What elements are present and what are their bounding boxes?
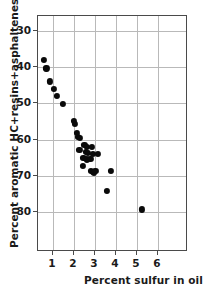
y-axis-tick xyxy=(33,102,37,103)
plot-area xyxy=(37,15,187,251)
y-axis-label-wrapper: Percent aromatic HC+resins+asphaltenes i… xyxy=(8,8,24,248)
x-axis-tick-label: 1 xyxy=(48,258,55,269)
data-point xyxy=(54,93,60,99)
data-point xyxy=(92,168,98,174)
gridline-horizontal xyxy=(38,212,186,213)
y-axis-tick xyxy=(33,175,37,176)
x-axis-label: Percent sulfur in oil xyxy=(0,274,203,286)
data-point xyxy=(72,121,78,127)
data-point xyxy=(94,151,100,157)
data-point xyxy=(43,65,49,71)
data-point xyxy=(104,188,110,194)
x-axis-tick xyxy=(73,251,74,255)
x-axis-tick-label: 2 xyxy=(69,258,76,269)
gridline-horizontal xyxy=(38,140,186,141)
data-point xyxy=(51,86,57,92)
x-axis-tick xyxy=(136,251,137,255)
y-axis-tick xyxy=(33,139,37,140)
x-axis-tick-label: 5 xyxy=(132,258,139,269)
data-point xyxy=(108,168,114,174)
y-axis-tick xyxy=(33,30,37,31)
x-axis-tick xyxy=(52,251,53,255)
scatter-chart-figure: 123456304050607080 Percent sulfur in oil… xyxy=(0,0,207,296)
x-axis-tick-label: 6 xyxy=(153,258,160,269)
x-axis-tick xyxy=(157,251,158,255)
gridline-vertical xyxy=(53,16,54,250)
gridline-horizontal xyxy=(38,31,186,32)
x-axis-tick xyxy=(94,251,95,255)
gridline-horizontal xyxy=(38,67,186,68)
gridline-vertical xyxy=(158,16,159,250)
x-axis-tick-label: 4 xyxy=(111,258,118,269)
gridline-vertical xyxy=(116,16,117,250)
gridline-horizontal xyxy=(38,176,186,177)
y-axis-tick xyxy=(33,211,37,212)
data-point xyxy=(40,57,46,63)
data-point xyxy=(80,163,86,169)
gridline-vertical xyxy=(95,16,96,250)
x-axis-tick xyxy=(115,251,116,255)
data-point xyxy=(60,101,66,107)
x-axis-tick-label: 3 xyxy=(90,258,97,269)
y-axis-tick xyxy=(33,66,37,67)
y-axis-label: Percent aromatic HC+resins+asphaltenes i… xyxy=(8,8,20,248)
gridline-vertical xyxy=(137,16,138,250)
